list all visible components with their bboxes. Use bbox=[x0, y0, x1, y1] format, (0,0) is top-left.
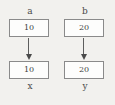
source-value-box-b: 20 bbox=[64, 19, 104, 37]
source-value-text-b: 20 bbox=[65, 22, 103, 33]
source-variable-label-a: a bbox=[8, 6, 52, 16]
source-value-text-a: 10 bbox=[10, 22, 48, 33]
target-value-text-y: 20 bbox=[65, 64, 103, 75]
assignment-column-right: b 20 20 y bbox=[63, 0, 107, 105]
arrow-down-icon-left bbox=[28, 38, 30, 61]
target-variable-label-x: x bbox=[8, 81, 52, 91]
target-variable-label-y: y bbox=[63, 81, 107, 91]
assignment-column-left: a 10 10 x bbox=[8, 0, 52, 105]
variable-assignment-diagram: a 10 10 x b 20 20 y bbox=[0, 0, 115, 105]
target-value-box-x: 10 bbox=[9, 61, 49, 79]
arrow-head-left bbox=[26, 54, 32, 60]
arrow-head-right bbox=[81, 54, 87, 60]
arrow-down-icon-right bbox=[83, 38, 85, 61]
source-value-box-a: 10 bbox=[9, 19, 49, 37]
target-value-text-x: 10 bbox=[10, 64, 48, 75]
source-variable-label-b: b bbox=[63, 6, 107, 16]
target-value-box-y: 20 bbox=[64, 61, 104, 79]
